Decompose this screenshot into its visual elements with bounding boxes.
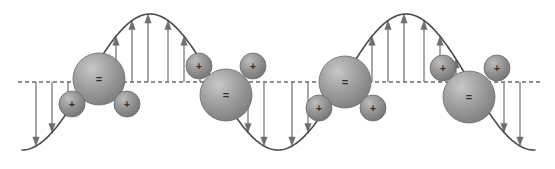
arrow-head [305,123,311,132]
field-arrow [181,36,187,82]
field-arrow [421,21,427,82]
arrow-head [113,36,119,45]
field-arrow [501,82,507,132]
field-arrow [129,21,135,82]
hydrogen-atom: + [186,53,212,79]
water-molecule: =++ [59,53,140,117]
hydrogen-atom: + [59,91,85,117]
oxygen-atom: = [443,71,495,123]
field-arrow [33,82,39,146]
arrow-head [501,123,507,132]
hydrogen-atom: + [360,95,386,121]
atom-sphere [59,91,85,117]
arrow-head [401,14,407,23]
field-arrow [289,82,295,146]
atom-sphere [114,91,140,117]
hydrogen-atom: + [114,91,140,117]
atom-sphere [360,95,386,121]
water-molecule: ++= [430,55,510,123]
arrow-head [145,14,151,23]
arrow-head [369,36,375,45]
diagram-canvas: =++++==++++= [0,0,555,169]
water-molecule: =++ [306,56,386,121]
atom-sphere [484,55,510,81]
field-arrow [145,14,151,82]
arrow-head [49,123,55,132]
field-arrow [261,82,267,146]
hydrogen-atom: + [306,95,332,121]
atom-sphere [186,53,212,79]
atom-sphere [306,95,332,121]
arrow-head [181,36,187,45]
molecule-layer: =++++==++++= [59,53,510,123]
field-arrow [517,82,523,146]
arrow-head [437,36,443,45]
field-arrow [401,14,407,82]
hydrogen-atom: + [240,53,266,79]
atom-sphere [240,53,266,79]
field-arrow [385,21,391,82]
field-arrow [49,82,55,132]
field-arrow [165,21,171,82]
arrow-head [245,123,251,132]
oxygen-atom: = [200,69,252,121]
atom-sphere [443,71,495,123]
atom-sphere [200,69,252,121]
wave-molecule-diagram: =++++==++++= [0,0,555,169]
hydrogen-atom: + [484,55,510,81]
water-molecule: ++= [186,53,266,121]
